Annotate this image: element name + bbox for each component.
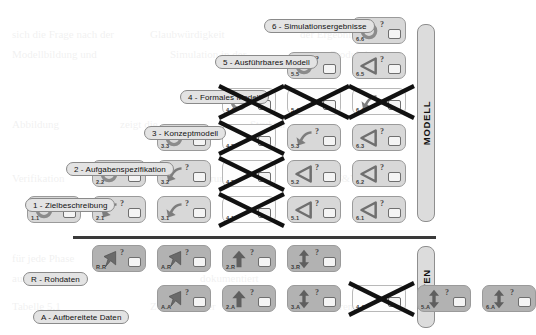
cell-label: 1.1 xyxy=(31,215,39,222)
cell-checkbox[interactable] xyxy=(193,297,206,307)
cell-checkbox[interactable] xyxy=(323,208,336,218)
cell-label: 2.A xyxy=(226,304,235,311)
question-marker: ? xyxy=(315,248,319,257)
cell-checkbox[interactable] xyxy=(453,297,466,307)
cell-label: 5.5 xyxy=(291,71,299,78)
cell-checkbox[interactable] xyxy=(128,257,141,267)
phase-label-2[interactable]: 2 - Aufgabenspezifikation xyxy=(66,162,174,176)
cell-checkbox[interactable] xyxy=(323,297,336,307)
question-marker: ? xyxy=(380,20,384,29)
cell-checkbox[interactable] xyxy=(388,64,401,74)
matrix-cell-5-a[interactable]: ?5.A xyxy=(417,285,471,312)
cell-label: 6.4 xyxy=(356,107,364,114)
cell-checkbox[interactable] xyxy=(518,297,531,307)
matrix-cell-r-r[interactable]: ?R.R xyxy=(92,245,146,272)
matrix-cell-5-1[interactable]: ?5.1 xyxy=(287,196,341,223)
cell-checkbox[interactable] xyxy=(323,136,336,146)
cell-label: 4.2 xyxy=(226,179,234,186)
matrix-cell-4-a[interactable]: 4.A xyxy=(352,285,406,312)
matrix-cell-a-a[interactable]: ?A.A xyxy=(157,285,211,312)
cell-checkbox[interactable] xyxy=(323,64,336,74)
cell-label: 3.2 xyxy=(161,179,169,186)
phase-label-1[interactable]: 1 - Zielbeschreibung xyxy=(25,198,115,212)
cell-checkbox[interactable] xyxy=(323,100,336,110)
cell-checkbox[interactable] xyxy=(258,172,271,182)
phase-label-4[interactable]: 4 - Formales Modell xyxy=(180,90,269,104)
cell-label: 4.1 xyxy=(226,215,234,222)
cell-checkbox[interactable] xyxy=(388,208,401,218)
matrix-cell-6-2[interactable]: ?6.2 xyxy=(352,160,406,187)
cell-checkbox[interactable] xyxy=(128,208,141,218)
phase-label-6[interactable]: 6 - Simulationsergebnisse xyxy=(264,19,375,33)
matrix-cell-5-2[interactable]: ?5.2 xyxy=(287,160,341,187)
cell-checkbox[interactable] xyxy=(388,100,401,110)
matrix-cell-6-5[interactable]: ?6.5 xyxy=(352,52,406,79)
cell-checkbox[interactable] xyxy=(323,172,336,182)
cell-label: 6.1 xyxy=(356,215,364,222)
matrix-cell-4-1[interactable]: 4.1 xyxy=(222,196,276,223)
cell-label: 5.1 xyxy=(291,215,299,222)
cell-label: 5.A xyxy=(421,304,430,311)
matrix-cell-a-r[interactable]: ?A.R xyxy=(157,245,211,272)
matrix-cell-3-1[interactable]: ?3.1 xyxy=(157,196,211,223)
cell-label: 2.1 xyxy=(96,215,104,222)
cell-checkbox[interactable] xyxy=(258,297,271,307)
cell-checkbox[interactable] xyxy=(388,136,401,146)
cell-label: 5.3 xyxy=(291,143,299,150)
phase-label-3[interactable]: 3 - Konzeptmodell xyxy=(144,126,226,140)
question-marker: ? xyxy=(380,127,384,136)
matrix-cell-2-r[interactable]: ?2.R xyxy=(222,245,276,272)
phase-label-r[interactable]: R - Rohdaten xyxy=(23,272,88,286)
question-marker: ? xyxy=(510,288,514,297)
matrix-cell-4-2[interactable]: 4.2 xyxy=(222,160,276,187)
matrix-cell-4-3[interactable]: 4.3 xyxy=(222,124,276,151)
matrix-cell-5-3[interactable]: ?5.3 xyxy=(287,124,341,151)
phase-label-5[interactable]: 5 - Ausführbares Modell xyxy=(215,55,318,69)
matrix-cell-6-a[interactable]: ?6.A xyxy=(482,285,536,312)
question-marker: ? xyxy=(315,163,319,172)
matrix-cell-6-1[interactable]: ?6.1 xyxy=(352,196,406,223)
cell-checkbox[interactable] xyxy=(258,257,271,267)
cell-label: 3.A xyxy=(291,304,300,311)
question-marker: ? xyxy=(250,248,254,257)
question-marker: ? xyxy=(185,163,189,172)
matrix-cell-6-3[interactable]: ?6.3 xyxy=(352,124,406,151)
cell-label: A.A xyxy=(161,304,171,311)
cell-checkbox[interactable] xyxy=(388,297,401,307)
cell-label: 4.4 xyxy=(226,107,234,114)
question-marker: ? xyxy=(315,288,319,297)
cell-label: 6.5 xyxy=(356,71,364,78)
cell-label: 5.2 xyxy=(291,179,299,186)
matrix-cell-3-r[interactable]: ?3.R xyxy=(287,245,341,272)
question-marker: ? xyxy=(120,199,124,208)
question-marker: ? xyxy=(315,199,319,208)
cell-checkbox[interactable] xyxy=(193,208,206,218)
cell-checkbox[interactable] xyxy=(258,136,271,146)
model-data-divider xyxy=(73,236,436,239)
question-marker: ? xyxy=(445,288,449,297)
cell-label: 4.3 xyxy=(226,143,234,150)
cell-checkbox[interactable] xyxy=(388,172,401,182)
question-marker: ? xyxy=(315,127,319,136)
question-marker: ? xyxy=(120,248,124,257)
cell-checkbox[interactable] xyxy=(193,172,206,182)
question-marker: ? xyxy=(185,199,189,208)
cell-checkbox[interactable] xyxy=(193,257,206,267)
cell-checkbox[interactable] xyxy=(323,257,336,267)
section-bar-modell: MODELL xyxy=(417,24,435,222)
matrix-cell-6-4[interactable]: 6.4 xyxy=(352,88,406,115)
matrix-cell-2-a[interactable]: ?2.A xyxy=(222,285,276,312)
cell-label: R.R xyxy=(96,264,106,271)
cell-label: 6.2 xyxy=(356,179,364,186)
section-bar-modell-label: MODELL xyxy=(421,101,432,145)
matrix-cell-3-a[interactable]: ?3.A xyxy=(287,285,341,312)
phase-label-a[interactable]: A - Aufbereitete Daten xyxy=(33,310,129,324)
cell-label: 3.1 xyxy=(161,215,169,222)
cell-label: 6.A xyxy=(486,304,495,311)
cell-checkbox[interactable] xyxy=(258,208,271,218)
cell-checkbox[interactable] xyxy=(388,29,401,39)
matrix-cell-5-4[interactable]: 5.4 xyxy=(287,88,341,115)
cell-label: 6.3 xyxy=(356,143,364,150)
cell-label: 3.3 xyxy=(161,143,169,150)
